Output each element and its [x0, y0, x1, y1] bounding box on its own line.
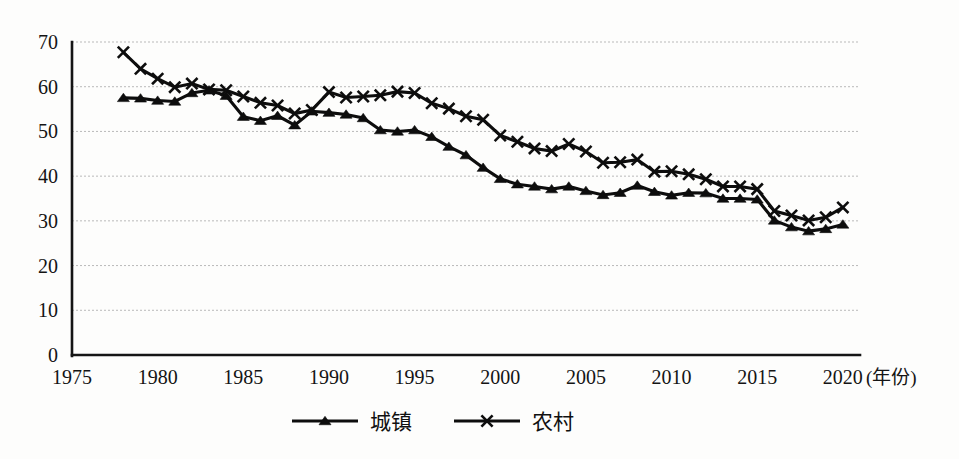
data-point-marker-x — [118, 47, 129, 58]
x-axis-unit-label: (年份) — [866, 367, 917, 389]
y-axis-tick-label: 60 — [38, 76, 58, 98]
y-axis-tick-label: 40 — [38, 165, 58, 187]
y-axis-tick-label: 70 — [38, 31, 58, 53]
series-line — [123, 90, 842, 231]
x-axis-tick-label: 2015 — [737, 366, 777, 388]
y-axis-tick-label: 0 — [48, 344, 58, 366]
chart-legend: 城镇农村 — [292, 410, 574, 434]
data-point-marker-triangle — [272, 111, 284, 119]
x-axis-tick-labels: 1975198019851990199520002005201020152020 — [52, 366, 863, 388]
x-axis-tick-label: 2000 — [480, 366, 520, 388]
x-axis-tick-label: 1995 — [395, 366, 435, 388]
y-axis-tick-label: 50 — [38, 120, 58, 142]
data-point-marker-x — [580, 146, 591, 157]
chart-container: 010203040506070 197519801985199019952000… — [0, 0, 959, 459]
y-axis-tick-label: 20 — [38, 255, 58, 277]
line-chart: 010203040506070 197519801985199019952000… — [0, 0, 959, 459]
data-point-marker-x — [135, 63, 146, 74]
data-series-1 — [117, 86, 848, 235]
x-axis-tick-label: 1985 — [223, 366, 263, 388]
y-axis-tick-label: 10 — [38, 299, 58, 321]
x-axis-tick-label: 1975 — [52, 366, 92, 388]
series-line — [123, 52, 842, 220]
legend-label: 城镇 — [370, 410, 412, 434]
legend-item-2[interactable]: 农村 — [454, 410, 574, 434]
data-point-marker-x — [837, 202, 848, 213]
x-axis-tick-label: 2010 — [652, 366, 692, 388]
data-point-marker-triangle — [631, 181, 643, 189]
legend-label: 农村 — [532, 410, 574, 434]
x-axis-tick-label: 2020 — [823, 366, 863, 388]
y-axis-tick-label: 30 — [38, 210, 58, 232]
x-axis-tick-label: 1990 — [309, 366, 349, 388]
legend-item-1[interactable]: 城镇 — [292, 410, 412, 434]
data-series-layer — [117, 47, 848, 235]
x-axis-tick-label: 1980 — [138, 366, 178, 388]
x-axis-tick-label: 2005 — [566, 366, 606, 388]
y-axis-tick-labels: 010203040506070 — [38, 31, 58, 366]
data-point-marker-x — [152, 73, 163, 84]
